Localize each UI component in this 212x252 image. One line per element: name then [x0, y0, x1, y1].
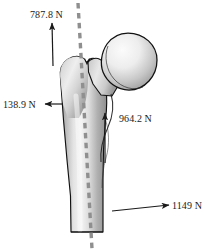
- force-label-964-2: 964.2 N: [119, 113, 152, 124]
- femur-force-diagram: 787.8 N 138.9 N 964.2 N 1149 N: [0, 0, 212, 252]
- force-arrow-1149: [112, 205, 169, 211]
- force-label-787-8: 787.8 N: [30, 9, 63, 20]
- force-arrow-787-8: [52, 23, 53, 66]
- force-label-1149: 1149 N: [172, 200, 202, 211]
- force-label-138-9: 138.9 N: [3, 99, 36, 110]
- diagram-canvas: 787.8 N 138.9 N 964.2 N 1149 N: [0, 0, 212, 252]
- femoral-head: [101, 33, 157, 90]
- femur-bone: [60, 33, 157, 232]
